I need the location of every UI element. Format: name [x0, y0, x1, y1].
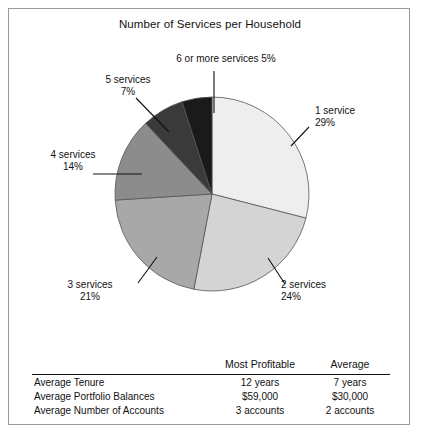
- pie-label-5-services-name: 5 services: [105, 74, 150, 85]
- pie-label-4-services-pct: 14%: [25, 161, 121, 173]
- table-header-average: Average: [310, 357, 390, 375]
- pie-label-6-or-more-services-name: 6 or more services 5%: [176, 53, 275, 64]
- pie-label-5-services-pct: 7%: [87, 86, 169, 98]
- table-header-most-profitable: Most Profitable: [210, 357, 310, 375]
- table-row: Average Number of Accounts3 accounts2 ac…: [32, 403, 390, 417]
- pie-label-1-service-name: 1 service: [315, 105, 355, 116]
- table-row: Average Tenure12 years7 years: [32, 375, 390, 390]
- pie-chart-area: 1 service 29% 2 services 24% 3 services …: [9, 9, 411, 349]
- leader-line-1-service: [291, 127, 309, 146]
- pie-label-3-services-pct: 21%: [40, 291, 140, 303]
- pie-label-3-services: 3 services 21%: [40, 279, 140, 303]
- table-cell-most-profitable: 3 accounts: [210, 403, 310, 417]
- pie-label-2-services-name: 2 services: [281, 279, 326, 290]
- pie-label-1-service: 1 service 29%: [315, 105, 355, 129]
- table-header-blank: [32, 357, 210, 375]
- table-body: Average Tenure12 years7 yearsAverage Por…: [32, 375, 390, 418]
- table-header-row: Most Profitable Average: [32, 357, 390, 375]
- table-cell-average: 7 years: [310, 375, 390, 390]
- table-cell-label: Average Number of Accounts: [32, 403, 210, 417]
- table-row: Average Portfolio Balances$59,000$30,000: [32, 389, 390, 403]
- pie-label-4-services: 4 services 14%: [25, 149, 121, 173]
- profile-table: Most Profitable Average Average Tenure12…: [32, 357, 390, 417]
- table-cell-label: Average Tenure: [32, 375, 210, 390]
- pie-label-4-services-name: 4 services: [50, 149, 95, 160]
- pie-label-6-or-more-services: 6 or more services 5%: [151, 53, 301, 65]
- table-cell-most-profitable: 12 years: [210, 375, 310, 390]
- figure-frame: Number of Services per Household 1 servi…: [8, 8, 410, 425]
- table-cell-label: Average Portfolio Balances: [32, 389, 210, 403]
- pie-label-5-services: 5 services 7%: [87, 74, 169, 98]
- pie-label-2-services-pct: 24%: [281, 291, 326, 303]
- table-cell-average: $30,000: [310, 389, 390, 403]
- pie-label-3-services-name: 3 services: [67, 279, 112, 290]
- table-cell-average: 2 accounts: [310, 403, 390, 417]
- table-cell-most-profitable: $59,000: [210, 389, 310, 403]
- pie-label-2-services: 2 services 24%: [281, 279, 326, 303]
- profile-table-wrap: Most Profitable Average Average Tenure12…: [9, 349, 411, 425]
- pie-label-1-service-pct: 29%: [315, 117, 355, 129]
- pie-slices: [115, 97, 309, 291]
